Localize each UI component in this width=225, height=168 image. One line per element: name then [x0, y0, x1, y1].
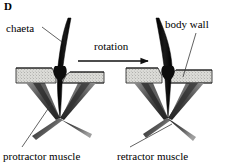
retractor-muscle-lower-right	[168, 119, 196, 141]
label-retractor-muscle: retractor muscle	[117, 150, 188, 162]
label-body-wall: body wall	[165, 18, 209, 30]
body-wall-left-segment-right-diagram	[126, 68, 162, 83]
retractor-muscle-lower-left	[143, 118, 171, 138]
protractor-muscle-left	[26, 83, 60, 120]
retractor-muscle-right	[168, 83, 204, 120]
body-wall-right-segment	[62, 72, 104, 83]
protractor-muscle-lower-right	[60, 119, 92, 138]
protractor-muscle-right	[60, 83, 96, 120]
chaeta-protracted-diagram	[16, 18, 104, 147]
leader-line-retractor	[130, 124, 172, 147]
leader-line-protractor	[22, 103, 52, 147]
protractor-muscle-lower-left	[32, 118, 63, 140]
label-rotation: rotation	[94, 40, 128, 52]
label-protractor-muscle: protractor muscle	[3, 150, 80, 162]
retractor-muscle-left	[134, 83, 168, 120]
chaeta-retracted-diagram	[126, 18, 212, 147]
label-chaeta: chaeta	[6, 22, 34, 34]
body-wall-left-segment	[16, 68, 56, 83]
leader-line-chaeta	[42, 27, 62, 42]
